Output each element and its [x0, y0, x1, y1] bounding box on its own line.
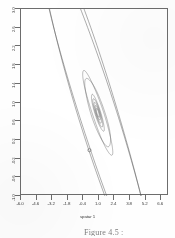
y-tick-label: 0.2 — [0, 136, 15, 141]
x-tick-mark — [98, 195, 99, 200]
y-tick-label: 2.6 — [0, 24, 15, 29]
y-tick-label-text: 1.4 — [12, 82, 17, 88]
figure-caption: Figure 4.5 : — [84, 228, 175, 236]
x-tick-mark — [82, 195, 83, 200]
y-tick-label: 1.0 — [0, 99, 15, 104]
contour-line — [39, 9, 159, 196]
plot-area — [20, 8, 168, 195]
x-axis-title: spatar 1 — [0, 214, 175, 220]
y-tick-label-text: 1.0 — [12, 101, 17, 107]
y-tick-label: 3.0 — [0, 6, 15, 11]
figure-page: 3.02.62.21.81.41.00.60.2-0.2-0.6-1.0 -6.… — [0, 0, 175, 238]
y-tick-label-text: -0.2 — [12, 157, 17, 164]
y-tick-label: 1.8 — [0, 62, 15, 67]
contour-line — [83, 70, 113, 155]
y-tick-label-text: 3.0 — [12, 8, 17, 14]
contour-line — [39, 9, 156, 196]
x-tick-mark — [160, 195, 161, 200]
x-tick-mark — [113, 195, 114, 200]
y-tick-label-text: 0.6 — [12, 120, 17, 126]
y-tick-label-text: 2.6 — [12, 26, 17, 32]
contour-line — [85, 78, 111, 146]
y-tick-label: 2.2 — [0, 43, 15, 48]
y-tick-label-text: 1.8 — [12, 64, 17, 70]
x-tick-mark — [20, 195, 21, 200]
y-tick-label: -1.0 — [0, 193, 15, 198]
y-tick-label: 1.4 — [0, 80, 15, 85]
y-tick-label: 0.6 — [0, 118, 15, 123]
x-tick-mark — [36, 195, 37, 200]
contour-plot — [21, 9, 169, 196]
y-tick-label: -0.2 — [0, 155, 15, 160]
y-tick-label-text: 2.2 — [12, 45, 17, 51]
x-tick-label: 6.6 — [149, 201, 171, 206]
x-tick-mark — [67, 195, 68, 200]
y-tick-label: -0.6 — [0, 174, 15, 179]
y-tick-label-text: -0.6 — [12, 176, 17, 183]
x-tick-mark — [51, 195, 52, 200]
contour-line — [91, 94, 104, 131]
y-tick-label-text: 0.2 — [12, 139, 17, 145]
x-tick-mark — [129, 195, 130, 200]
x-tick-mark — [145, 195, 146, 200]
